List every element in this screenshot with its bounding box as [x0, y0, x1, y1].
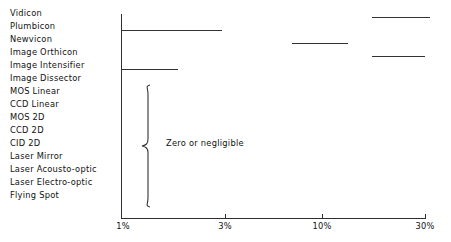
range-bar-image-orthicon [372, 56, 425, 57]
zero-negligible-label: Zero or negligible [166, 139, 244, 148]
category-label-ccd-2d: CCD 2D [10, 126, 44, 135]
category-label-image-dissector: Image Dissector [10, 74, 81, 83]
category-label-flying-spot: Flying Spot [10, 191, 59, 200]
x-tick-label-1pct: 1% [116, 222, 130, 231]
category-label-laser-acousto-optic: Laser Acousto-optic [10, 165, 97, 174]
range-bar-image-intensifier [121, 69, 178, 70]
x-tick-3pct [225, 214, 226, 218]
x-tick-label-30pct: 30% [415, 222, 434, 231]
category-label-image-orthicon: Image Orthicon [10, 48, 78, 57]
category-label-vidicon: Vidicon [10, 9, 42, 18]
y-axis-line [121, 14, 122, 218]
x-tick-label-10pct: 10% [312, 222, 331, 231]
category-label-laser-mirror: Laser Mirror [10, 152, 63, 161]
range-bar-plumbicon [121, 30, 222, 31]
x-tick-1pct [121, 214, 122, 218]
x-axis-line [121, 218, 426, 219]
zero-negligible-brace [141, 84, 157, 208]
x-tick-30pct [425, 214, 426, 218]
category-label-image-intensifier: Image Intensifier [10, 61, 85, 70]
range-bar-vidicon [372, 17, 430, 18]
chart-canvas: Vidicon Plumbicon Newvicon Image Orthico… [0, 0, 451, 242]
category-label-ccd-linear: CCD Linear [10, 100, 59, 109]
category-label-laser-electro-optic: Laser Electro-optic [10, 178, 92, 187]
range-bar-newvicon [292, 43, 348, 44]
category-label-mos-linear: MOS Linear [10, 87, 60, 96]
category-label-mos-2d: MOS 2D [10, 113, 45, 122]
category-label-cid-2d: CID 2D [10, 139, 40, 148]
category-label-plumbicon: Plumbicon [10, 22, 55, 31]
x-tick-10pct [322, 214, 323, 218]
x-tick-label-3pct: 3% [218, 222, 232, 231]
category-label-newvicon: Newvicon [10, 35, 52, 44]
